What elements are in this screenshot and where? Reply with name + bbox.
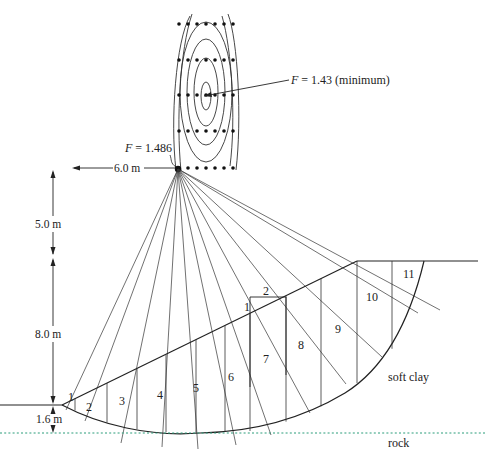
radial-line [178, 169, 382, 357]
grid-point [222, 129, 226, 133]
slice-label: 11 [403, 267, 415, 281]
rock-label: rock [388, 436, 409, 450]
vertical-dimensions [51, 170, 56, 433]
grid-point [186, 93, 190, 97]
fs-contours [174, 14, 239, 171]
grid-point [231, 129, 235, 133]
slice-label: 6 [228, 370, 234, 384]
slice-label: 8 [298, 338, 304, 352]
grid-point [204, 129, 208, 133]
grid-point [177, 58, 181, 62]
slope-stability-diagram: F = 1.43 (minimum) F = 1.486 6.0 m 5.0 m… [0, 0, 492, 463]
grid-point [231, 93, 235, 97]
grid-point [195, 58, 199, 62]
inset-label-1: 1 [244, 300, 250, 314]
dim-label-5m: 5.0 m [35, 218, 61, 230]
radial-line [178, 169, 236, 445]
slice-label: 9 [335, 322, 341, 336]
radial-line [121, 169, 178, 443]
slice-labels: 1234567891011 [68, 267, 415, 414]
grid-point [186, 22, 190, 26]
slice-label: 1 [68, 390, 74, 404]
dim-label-8m: 8.0 m [35, 328, 61, 340]
grid-point [231, 22, 235, 26]
grid-point [186, 58, 190, 62]
grid-point [195, 166, 199, 170]
grid-point [222, 58, 226, 62]
horizontal-dim-label: 6.0 m [114, 162, 140, 174]
grid-point [213, 166, 217, 170]
min-factor-label: F = 1.43 (minimum) [290, 73, 390, 87]
radial-line [85, 169, 178, 421]
radial-line [178, 169, 440, 310]
dim-label-1-6m: 1.6 m [36, 413, 62, 425]
inset-label-2: 2 [263, 284, 269, 298]
trial-factor-label: F = 1.486 [124, 141, 172, 155]
radial-line [66, 169, 178, 410]
grid-point [186, 129, 190, 133]
slice-label: 4 [157, 388, 163, 402]
radial-line [178, 169, 418, 313]
grid-point [213, 22, 217, 26]
grid-point [231, 166, 235, 170]
slice-label: 7 [263, 352, 269, 366]
soft-clay-label: soft clay [388, 370, 429, 384]
grid-point [195, 22, 199, 26]
grid-point [195, 93, 199, 97]
grid-point [186, 166, 190, 170]
grid-point [204, 22, 208, 26]
slice-label: 2 [86, 400, 92, 414]
radial-line [162, 169, 178, 447]
grid-point [213, 129, 217, 133]
min-factor-leader [204, 80, 289, 96]
grid-point [222, 22, 226, 26]
slice-label: 10 [366, 290, 378, 304]
grid-point [222, 93, 226, 97]
grid-point [204, 58, 208, 62]
grid-point [195, 129, 199, 133]
radial-line [178, 169, 271, 435]
grid-point [177, 129, 181, 133]
grid-point [231, 58, 235, 62]
grid-point [204, 166, 208, 170]
radial-line [178, 169, 198, 449]
grid-point [222, 166, 226, 170]
arrow-left-icon [72, 166, 80, 171]
grid-point [177, 93, 181, 97]
radial-line [178, 169, 310, 413]
slice-label: 5 [193, 381, 199, 395]
grid-point [213, 58, 217, 62]
slip-circle [62, 261, 424, 434]
slice-label: 3 [119, 394, 125, 408]
grid-point [177, 22, 181, 26]
